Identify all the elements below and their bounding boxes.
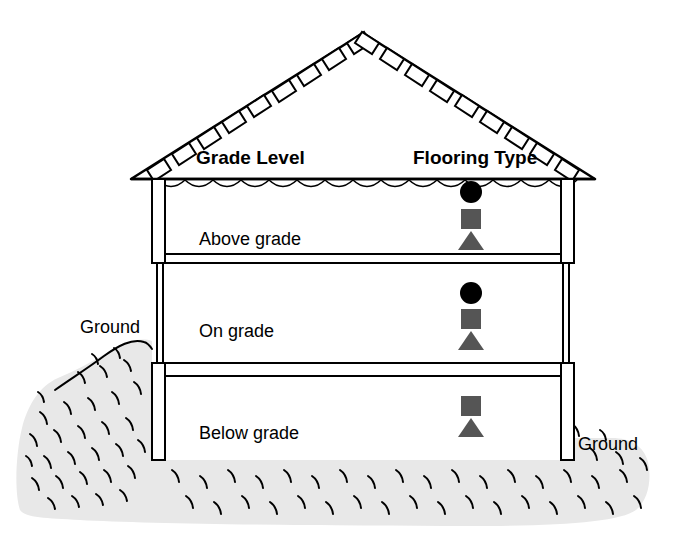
square-marker — [461, 396, 481, 416]
circle-marker — [460, 181, 482, 203]
house-cross-section-illustration: Grade Level Flooring Type Above grade On… — [0, 0, 686, 547]
wall-left-middle — [157, 263, 163, 363]
circle-marker — [460, 282, 482, 304]
square-marker — [461, 309, 481, 329]
wall-right-middle — [563, 263, 569, 363]
soffit-scallops — [157, 180, 577, 187]
exterior-walls — [152, 179, 574, 460]
level-on-grade: On grade — [199, 282, 484, 350]
ground-label-left: Ground — [80, 317, 140, 337]
triangle-marker — [458, 231, 484, 250]
floor-slab-lower — [165, 363, 561, 376]
wall-right-foundation — [561, 363, 574, 460]
level-above-grade: Above grade — [199, 181, 484, 250]
floor-assemblies — [165, 254, 561, 376]
level-below-grade: Below grade — [199, 396, 484, 443]
level-label-on-grade: On grade — [199, 321, 274, 341]
wall-right-upper — [561, 179, 574, 263]
ground-label-right: Ground — [578, 434, 638, 454]
floor-slab-upper — [165, 254, 561, 263]
wall-left-foundation — [152, 363, 165, 460]
level-label-above-grade: Above grade — [199, 229, 301, 249]
triangle-marker — [458, 331, 484, 350]
column-header-grade-level: Grade Level — [196, 147, 305, 168]
level-label-below-grade: Below grade — [199, 423, 299, 443]
square-marker — [461, 209, 481, 229]
column-header-flooring-type: Flooring Type — [413, 147, 537, 168]
triangle-marker — [458, 418, 484, 437]
grade-level-flooring-diagram: Grade Level Flooring Type Above grade On… — [0, 0, 686, 547]
wall-left-upper — [152, 179, 165, 263]
